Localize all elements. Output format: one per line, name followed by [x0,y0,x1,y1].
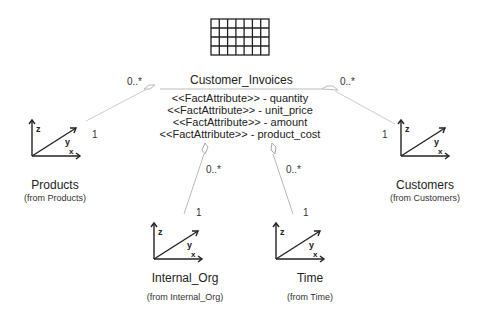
aggregation-diamond-internal-org [202,143,208,154]
aggregation-diamond-products [144,85,155,89]
dimension-package-internal-org: (from Internal_Org) [135,292,235,302]
aggregation-diamond-customers [322,86,338,90]
fact-attribute-list: <<FactAttribute>> - quantity <<FactAttri… [150,92,330,140]
multiplicity-dim-time: 1 [303,207,309,218]
multiplicity-fact-time: 0..* [286,164,301,175]
fact-attribute[interactable]: <<FactAttribute>> - quantity [150,92,330,104]
dimension-name-time[interactable]: Time [280,271,340,285]
svg-text:z: z [405,124,410,134]
svg-text:y: y [309,240,314,250]
dimension-axes-icon[interactable]: z y x [26,116,82,160]
svg-text:x: x [313,250,318,259]
dimension-axes-icon[interactable]: z y x [270,219,326,263]
multiplicity-fact-customers: 0..* [340,76,355,87]
svg-text:y: y [65,137,70,147]
multiplicity-dim-internal-org: 1 [196,207,202,218]
fact-attribute[interactable]: <<FactAttribute>> - amount [150,116,330,128]
association-line-customers[interactable] [335,91,395,124]
dimension-package-time: (from Time) [270,292,350,302]
svg-text:z: z [158,227,163,237]
association-line-products[interactable] [86,89,147,121]
association-line-time[interactable] [273,154,293,214]
multiplicity-dim-customers: 1 [382,129,388,140]
dimension-axes-icon[interactable]: z y x [148,219,204,263]
svg-text:y: y [187,240,192,250]
svg-text:x: x [69,147,74,156]
svg-text:z: z [36,124,41,134]
multiplicity-fact-internal-org: 0..* [206,164,221,175]
dimension-name-customers[interactable]: Customers [385,178,465,192]
dimension-axes-icon[interactable]: z y x [395,116,451,160]
fact-attribute[interactable]: <<FactAttribute>> - product_cost [150,128,330,140]
fact-attribute[interactable]: <<FactAttribute>> - unit_price [150,104,330,116]
association-line-internal-org[interactable] [184,154,204,214]
fact-class-name[interactable]: Customer_Invoices [190,73,290,87]
aggregation-diamond-time [271,143,276,154]
dimension-name-products[interactable]: Products [20,178,90,192]
svg-text:y: y [434,137,439,147]
multiplicity-dim-products: 1 [92,129,98,140]
multiplicity-fact-products: 0..* [127,76,142,87]
fact-table-grid-icon[interactable] [210,18,270,56]
dimension-package-products: (from Products) [15,193,95,203]
svg-text:x: x [191,250,196,259]
dimension-name-internal-org[interactable]: Internal_Org [140,271,230,285]
svg-text:x: x [438,147,443,156]
svg-text:z: z [280,227,285,237]
dimension-package-customers: (from Customers) [380,193,470,203]
